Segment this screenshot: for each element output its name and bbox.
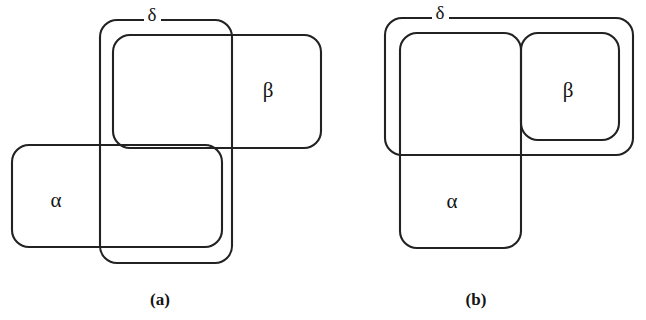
- panel-b: δ β α (b): [385, 2, 633, 309]
- panel-a-region-delta[interactable]: [100, 20, 232, 263]
- panel-a-region-alpha[interactable]: [12, 145, 222, 247]
- panel-a-label-beta: β: [263, 78, 274, 102]
- panel-b-region-alpha[interactable]: [400, 33, 521, 248]
- set-relation-diagram: δ β α (a) δ β α (b): [0, 0, 646, 320]
- panel-a: δ β α (a): [12, 4, 321, 309]
- panel-a-region-beta[interactable]: [113, 35, 321, 148]
- panel-b-label-alpha: α: [446, 189, 457, 213]
- panel-b-caption: (b): [466, 290, 487, 309]
- panel-b-region-delta[interactable]: [385, 18, 633, 155]
- panel-a-label-delta: δ: [148, 4, 157, 25]
- panel-a-label-alpha: α: [50, 188, 61, 212]
- panel-b-label-delta: δ: [436, 2, 445, 23]
- panel-a-caption: (a): [150, 290, 170, 309]
- panel-b-label-beta: β: [563, 78, 574, 102]
- figure-root: δ β α (a) δ β α (b): [0, 0, 646, 320]
